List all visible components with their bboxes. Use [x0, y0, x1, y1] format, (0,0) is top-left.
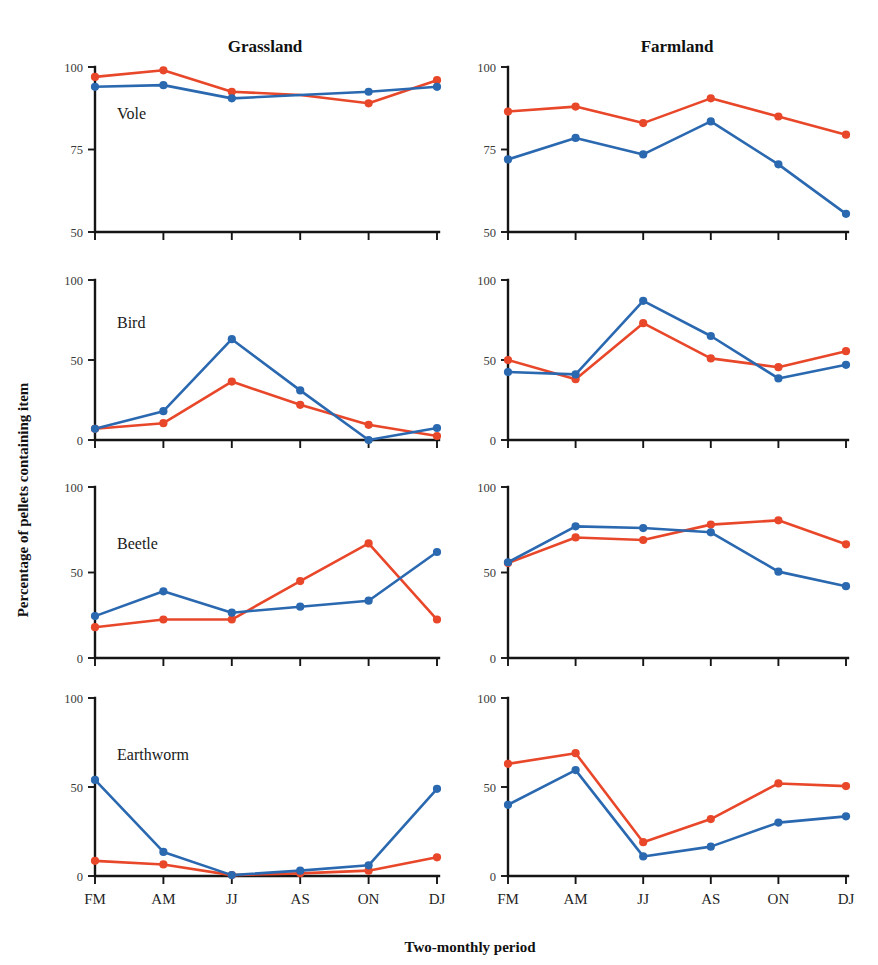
data-point-series-blue	[707, 117, 715, 125]
data-point-series-red	[842, 347, 850, 355]
data-point-series-blue	[774, 568, 782, 576]
data-point-series-blue	[228, 609, 236, 617]
y-tick-label: 50	[71, 226, 84, 240]
data-point-series-blue	[91, 776, 99, 784]
x-tick-label: AM	[564, 891, 588, 907]
data-point-series-red	[639, 838, 647, 846]
panel-group: 5075100Vole5075100050100Bird050100050100…	[64, 61, 854, 908]
line-series-red	[508, 520, 846, 563]
data-point-series-blue	[433, 83, 441, 91]
data-point-series-blue	[91, 612, 99, 620]
x-tick-label: ON	[768, 891, 790, 907]
data-point-series-red	[842, 540, 850, 548]
x-tick-label: DJ	[838, 891, 855, 907]
data-point-series-red	[774, 112, 782, 120]
data-point-series-blue	[842, 210, 850, 218]
y-axis-title: Percentage of pellets containing item	[15, 382, 31, 617]
data-point-series-blue	[774, 819, 782, 827]
data-point-series-red	[296, 401, 304, 409]
line-series-blue	[95, 780, 437, 875]
data-point-series-blue	[365, 88, 373, 96]
data-point-series-red	[91, 73, 99, 81]
y-tick-label: 0	[77, 870, 83, 884]
y-tick-label: 100	[477, 692, 496, 706]
data-point-series-red	[91, 857, 99, 865]
data-point-series-blue	[504, 558, 512, 566]
x-tick-label: FM	[497, 891, 519, 907]
data-point-series-blue	[365, 861, 373, 869]
panel-earthworm-farmland: 050100FMAMJJASONDJ	[477, 692, 854, 908]
panel-earthworm-grassland: 050100FMAMJJASONDJEarthworm	[64, 692, 445, 908]
data-point-series-red	[365, 539, 373, 547]
y-tick-label: 0	[490, 652, 496, 666]
data-point-series-blue	[774, 160, 782, 168]
y-tick-label: 100	[64, 61, 83, 75]
y-tick-label: 50	[71, 566, 84, 580]
data-point-series-blue	[159, 587, 167, 595]
y-tick-label: 0	[490, 870, 496, 884]
data-point-series-red	[296, 577, 304, 585]
x-tick-label: AS	[291, 891, 310, 907]
data-point-series-blue	[433, 548, 441, 556]
data-point-series-blue	[842, 361, 850, 369]
y-tick-label: 100	[64, 481, 83, 495]
panel-bird-grassland: 050100Bird	[64, 274, 441, 449]
y-tick-label: 100	[64, 692, 83, 706]
data-point-series-blue	[774, 374, 782, 382]
figure-root: Grassland Farmland Percentage of pellets…	[0, 0, 878, 965]
data-point-series-red	[707, 94, 715, 102]
line-series-red	[95, 543, 437, 627]
data-point-series-blue	[365, 436, 373, 444]
x-tick-label: ON	[358, 891, 380, 907]
data-point-series-blue	[91, 425, 99, 433]
data-point-series-blue	[639, 297, 647, 305]
y-tick-label: 50	[484, 226, 497, 240]
data-point-series-red	[504, 760, 512, 768]
data-point-series-blue	[639, 150, 647, 158]
y-tick-label: 100	[477, 274, 496, 288]
data-point-series-blue	[504, 155, 512, 163]
x-tick-label: AM	[151, 891, 175, 907]
data-point-series-blue	[365, 597, 373, 605]
panel-label-bird: Bird	[117, 314, 145, 331]
y-tick-label: 0	[77, 434, 83, 448]
x-tick-label: FM	[84, 891, 106, 907]
data-point-series-blue	[707, 843, 715, 851]
data-point-series-red	[707, 815, 715, 823]
data-point-series-blue	[639, 852, 647, 860]
panel-bird-farmland: 050100	[477, 274, 850, 449]
data-point-series-red	[572, 533, 580, 541]
y-tick-label: 75	[484, 143, 497, 157]
data-point-series-blue	[433, 424, 441, 432]
data-point-series-red	[572, 749, 580, 757]
data-point-series-red	[774, 779, 782, 787]
data-point-series-red	[639, 119, 647, 127]
panel-vole-grassland: 5075100Vole	[64, 61, 441, 241]
line-series-blue	[508, 121, 846, 213]
panel-beetle-farmland: 050100	[477, 481, 850, 667]
y-tick-label: 75	[71, 143, 84, 157]
y-tick-label: 0	[77, 652, 83, 666]
data-point-series-red	[433, 615, 441, 623]
data-point-series-blue	[842, 812, 850, 820]
data-point-series-blue	[159, 848, 167, 856]
data-point-series-blue	[639, 524, 647, 532]
line-series-red	[95, 382, 437, 436]
y-tick-label: 50	[71, 354, 84, 368]
data-point-series-blue	[707, 528, 715, 536]
data-point-series-blue	[842, 582, 850, 590]
data-point-series-blue	[572, 522, 580, 530]
data-point-series-blue	[572, 370, 580, 378]
y-tick-label: 100	[477, 481, 496, 495]
data-point-series-red	[365, 421, 373, 429]
multi-panel-line-chart: Grassland Farmland Percentage of pellets…	[0, 0, 878, 965]
line-series-red	[508, 323, 846, 379]
panel-label-vole: Vole	[117, 105, 146, 122]
column-title-grassland: Grassland	[228, 37, 303, 56]
data-point-series-red	[572, 103, 580, 111]
data-point-series-blue	[296, 603, 304, 611]
axis-lines	[95, 487, 439, 658]
data-point-series-red	[707, 521, 715, 529]
data-point-series-red	[365, 99, 373, 107]
panel-label-beetle: Beetle	[117, 535, 158, 552]
